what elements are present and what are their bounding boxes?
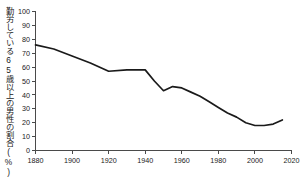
x-tick-label: 2020 [284, 156, 300, 165]
y-tick-label-group: 0102030405060708090100 [18, 7, 30, 155]
y-tick-label: 90 [22, 21, 30, 30]
line-chart-plot: 0102030405060708090100 18801900192019401… [0, 0, 302, 181]
x-tick-label-group: 18801900192019401960198020002020 [28, 156, 300, 165]
y-tick-label: 30 [22, 104, 30, 113]
x-tick-mark-group [36, 151, 292, 155]
y-tick-label: 40 [22, 91, 30, 100]
data-series-line [36, 45, 283, 126]
y-tick-label: 50 [22, 77, 30, 86]
y-tick-label: 100 [18, 7, 30, 16]
x-tick-label: 1980 [210, 156, 226, 165]
x-tick-label: 2000 [247, 156, 263, 165]
x-tick-label: 1920 [101, 156, 117, 165]
chart-container: 勤労している65歳以上の男性の割合(%) 0102030405060708090… [0, 0, 302, 181]
x-tick-label: 1960 [174, 156, 190, 165]
y-tick-mark-group [32, 12, 36, 151]
y-tick-label: 70 [22, 49, 30, 58]
x-tick-label: 1880 [28, 156, 44, 165]
y-tick-label: 60 [22, 63, 30, 72]
y-tick-label: 0 [26, 146, 30, 155]
y-tick-label: 10 [22, 132, 30, 141]
y-tick-label: 20 [22, 118, 30, 127]
x-tick-label: 1940 [137, 156, 153, 165]
y-tick-label: 80 [22, 35, 30, 44]
x-tick-label: 1900 [64, 156, 80, 165]
